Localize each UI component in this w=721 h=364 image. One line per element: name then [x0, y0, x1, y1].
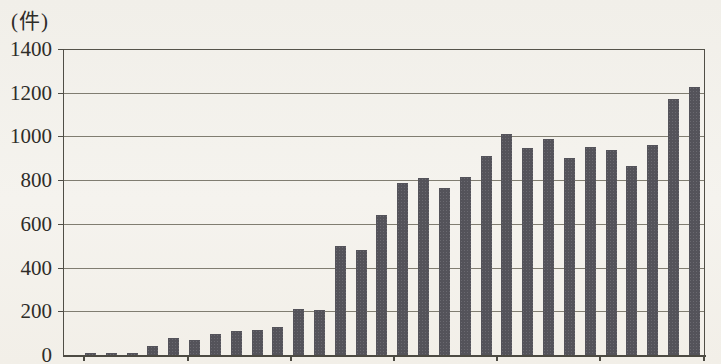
x-axis-tick — [290, 355, 292, 361]
bar-18 — [439, 188, 450, 355]
y-axis-labels: 1400120010008006004002000 — [0, 0, 52, 364]
bar-5 — [168, 338, 179, 355]
x-axis-line — [63, 355, 706, 357]
y-axis-tick-label: 1200 — [0, 81, 52, 105]
y-axis-tick — [58, 49, 64, 50]
bar-29 — [668, 99, 679, 355]
x-axis-tick — [83, 355, 85, 361]
y-axis-tick-label: 800 — [0, 168, 52, 192]
gridline-1200 — [64, 93, 704, 94]
y-axis-tick-label: 1000 — [0, 124, 52, 148]
y-axis-tick — [58, 268, 64, 269]
bar-21 — [501, 134, 512, 355]
bar-23 — [543, 139, 554, 355]
bar-15 — [376, 215, 387, 355]
y-axis-tick — [58, 311, 64, 312]
bar-26 — [606, 150, 617, 355]
y-axis-tick — [58, 224, 64, 225]
scanned-bar-chart: (件) 1400120010008006004002000 — [0, 0, 721, 364]
bar-13 — [335, 246, 346, 355]
y-axis-tick-label: 600 — [0, 212, 52, 236]
bar-19 — [460, 177, 471, 355]
bar-24 — [564, 158, 575, 355]
bar-7 — [210, 334, 221, 355]
x-axis-tick — [187, 355, 189, 361]
y-axis-tick-label: 1400 — [0, 37, 52, 61]
x-axis-tick — [496, 355, 498, 361]
bar-25 — [585, 147, 596, 355]
y-axis-tick-label: 400 — [0, 256, 52, 280]
bar-8 — [231, 331, 242, 355]
bar-16 — [397, 183, 408, 355]
bar-22 — [522, 148, 533, 355]
bar-4 — [147, 346, 158, 355]
x-axis-tick — [703, 355, 705, 361]
bar-11 — [293, 309, 304, 355]
bar-14 — [356, 250, 367, 355]
bar-28 — [647, 145, 658, 355]
y-axis-tick — [58, 93, 64, 94]
gridline-1400 — [64, 49, 704, 50]
bar-12 — [314, 310, 325, 355]
bar-27 — [626, 166, 637, 355]
bar-17 — [418, 178, 429, 355]
y-axis-tick-label: 200 — [0, 299, 52, 323]
y-axis-tick — [58, 180, 64, 181]
bar-10 — [272, 327, 283, 355]
y-axis-tick-label: 0 — [0, 343, 52, 364]
bar-30 — [689, 87, 700, 355]
x-axis-tick — [599, 355, 601, 361]
y-axis-tick — [58, 136, 64, 137]
plot-area — [63, 49, 705, 355]
bar-6 — [189, 340, 200, 355]
bar-20 — [481, 156, 492, 355]
gridline-1000 — [64, 136, 704, 137]
bar-9 — [252, 330, 263, 355]
x-axis-tick — [393, 355, 395, 361]
